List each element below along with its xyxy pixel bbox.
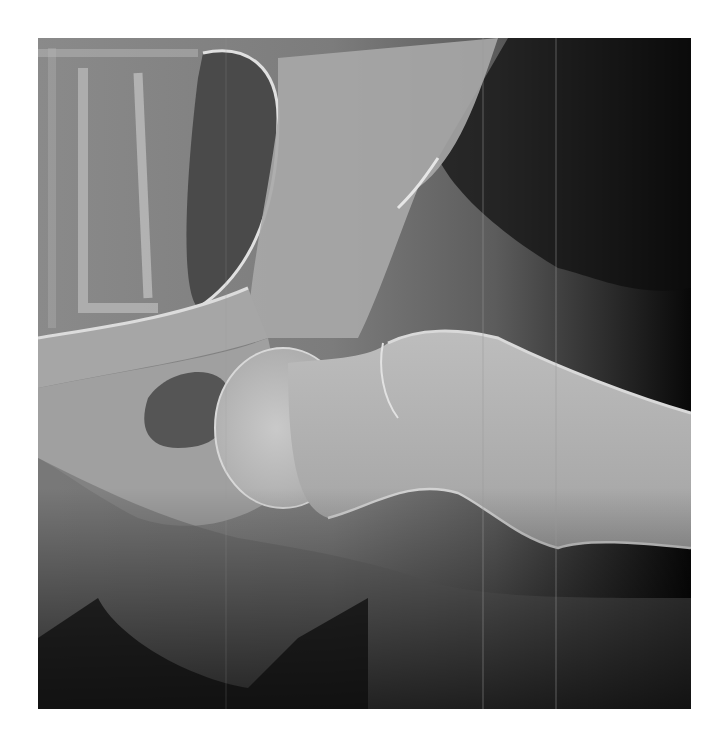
radiograph-illustration xyxy=(38,38,691,709)
hip-radiograph xyxy=(38,38,691,709)
top-margin xyxy=(0,0,724,38)
